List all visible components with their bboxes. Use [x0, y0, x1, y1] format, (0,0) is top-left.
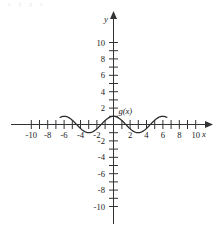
x-tick-label-8: 8: [177, 130, 181, 140]
y-tick-label-2: 2: [101, 103, 105, 113]
coordinate-plane-svg: -10 -8 -6 -4 -2 2 4 6 8 10 10 8 6 4 2 -2…: [0, 0, 223, 231]
y-axis-label: y: [103, 14, 108, 24]
x-tick-label-6: 6: [161, 130, 166, 140]
y-tick-label-10: 10: [96, 38, 105, 48]
y-tick-label--10: -10: [94, 202, 105, 212]
y-tick-label-4: 4: [101, 87, 106, 97]
x-axis-label: x: [201, 129, 206, 139]
x-tick-label-2: 2: [128, 130, 132, 140]
y-axis-arrowhead: [110, 11, 117, 19]
y-tick-label-6: 6: [101, 70, 106, 80]
x-tick-label--6: -6: [61, 130, 69, 140]
graph-figure: -10 -8 -6 -4 -2 2 4 6 8 10 10 8 6 4 2 -2…: [0, 0, 223, 231]
x-tick-label-10: 10: [191, 130, 200, 140]
x-tick-label-4: 4: [144, 130, 149, 140]
y-tick-label--4: -4: [98, 152, 106, 162]
x-axis-arrowhead: [205, 121, 213, 128]
curve-label-gx: g(x): [118, 106, 132, 116]
x-tick-label--8: -8: [44, 130, 51, 140]
y-tick-label-8: 8: [101, 54, 105, 64]
y-tick-label--8: -8: [98, 185, 105, 195]
y-tick-label--6: -6: [98, 169, 106, 179]
y-tick-label--2: -2: [98, 136, 105, 146]
x-tick-label--10: -10: [26, 130, 37, 140]
